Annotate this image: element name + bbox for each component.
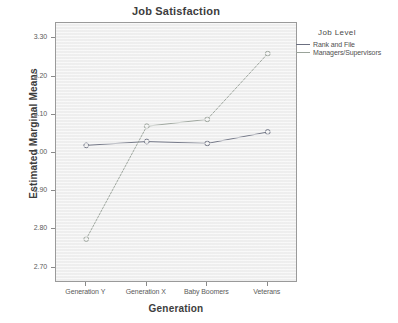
x-tick-mark xyxy=(267,282,268,286)
legend-entry: Rank and File xyxy=(306,41,398,48)
plot-area xyxy=(55,22,297,282)
legend-label: Rank and File xyxy=(313,41,355,48)
y-tick-label: 3.10 xyxy=(21,110,47,117)
legend-label: Managers/Supervisors xyxy=(313,49,381,56)
series-1 xyxy=(84,130,270,148)
y-tick-label: 2.90 xyxy=(21,186,47,193)
y-axis-title: Estimated Marginal Means xyxy=(28,44,39,224)
series-line xyxy=(86,132,268,145)
y-tick-label: 2.70 xyxy=(21,263,47,270)
data-point-marker xyxy=(205,117,210,122)
legend: Job Level Rank and FileManagers/Supervis… xyxy=(306,28,398,57)
spss-line-chart: Job Satisfaction Estimated Marginal Mean… xyxy=(0,0,398,323)
x-tick-mark xyxy=(85,282,86,286)
y-tick-label: 3.20 xyxy=(21,72,47,79)
data-point-marker xyxy=(144,124,149,129)
y-tick-label: 3.30 xyxy=(21,33,47,40)
data-point-marker xyxy=(144,139,149,144)
legend-entries: Rank and FileManagers/Supervisors xyxy=(306,41,398,56)
x-tick-label: Veterans xyxy=(230,288,304,295)
series-2 xyxy=(84,51,270,241)
legend-entry: Managers/Supervisors xyxy=(306,49,398,56)
legend-line-swatch-icon xyxy=(296,52,310,53)
data-point-marker xyxy=(84,143,89,148)
x-axis-title: Generation xyxy=(55,303,297,314)
data-point-marker xyxy=(205,141,210,146)
data-point-marker xyxy=(265,130,270,135)
series-line xyxy=(86,54,268,239)
series-layer xyxy=(56,23,297,282)
x-tick-mark xyxy=(146,282,147,286)
y-tick-label: 3.00 xyxy=(21,148,47,155)
legend-line-swatch-icon xyxy=(296,44,310,45)
chart-title: Job Satisfaction xyxy=(55,5,297,17)
y-tick-label: 2.80 xyxy=(21,224,47,231)
data-point-marker xyxy=(265,51,270,56)
x-tick-mark xyxy=(206,282,207,286)
legend-title: Job Level xyxy=(318,28,398,37)
data-point-marker xyxy=(84,237,89,242)
